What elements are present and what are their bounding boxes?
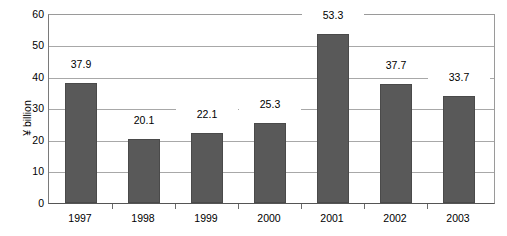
bar-chart: ¥ billion 60 50 40 30 20 10 0 37.9 20.1 … [0,0,507,236]
x-label-2001: 2001 [302,212,362,224]
bar-value-2003: 33.7 [428,72,490,83]
gridline-50 [49,46,494,47]
bar-2000 [254,123,286,203]
x-label-1999: 1999 [176,212,236,224]
bar-2002 [380,84,412,203]
bar-value-1997: 37.9 [50,59,112,70]
x-label-2000: 2000 [239,212,299,224]
y-tick-label: 0 [26,198,44,209]
y-tick-label: 40 [26,72,44,83]
x-tick [175,204,176,209]
bar-2001 [317,34,349,203]
x-tick [238,204,239,209]
bar-value-2000: 25.3 [239,99,301,110]
bar-1999 [191,133,223,203]
x-label-1998: 1998 [113,212,173,224]
bar-value-1998: 20.1 [113,115,175,126]
y-tick-label: 20 [26,135,44,146]
x-tick [112,204,113,209]
y-tick-label: 60 [26,9,44,20]
bar-2003 [443,96,475,203]
x-tick [364,204,365,209]
bar-1998 [128,139,160,203]
x-tick [301,204,302,209]
x-tick [427,204,428,209]
x-label-2002: 2002 [365,212,425,224]
x-label-2003: 2003 [428,212,488,224]
bar-value-1999: 22.1 [176,109,238,120]
y-tick-label: 30 [26,103,44,114]
y-tick-label: 50 [26,40,44,51]
bar-value-2002: 37.7 [365,60,427,71]
bar-value-2001: 53.3 [302,10,364,21]
y-axis-tick-labels: 60 50 40 30 20 10 0 [26,0,44,236]
y-tick-label: 10 [26,166,44,177]
x-label-1997: 1997 [50,212,110,224]
bar-1997 [65,83,97,203]
